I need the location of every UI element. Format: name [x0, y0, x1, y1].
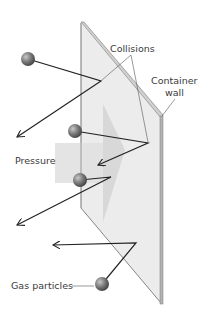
particle-3: [73, 173, 87, 187]
particle-2: [68, 124, 82, 138]
container-wall-label-line2: wall: [165, 87, 184, 98]
collisions-label: Collisions: [110, 43, 155, 54]
container-wall-label-line1: Container: [151, 75, 198, 86]
gas-pressure-diagram: Collisions Container wall Pressure Gas p…: [0, 0, 202, 311]
particle-1: [21, 52, 35, 66]
gas-particles-label: Gas particles: [11, 280, 73, 291]
pressure-label: Pressure: [15, 155, 56, 166]
particle-4: [95, 277, 109, 291]
